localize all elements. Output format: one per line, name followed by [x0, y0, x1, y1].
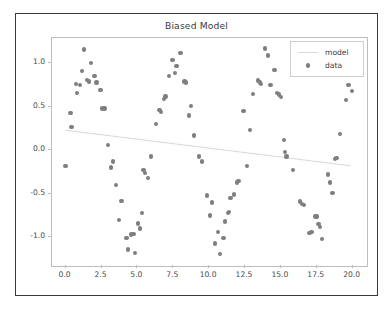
data-point: [334, 156, 338, 160]
data-point: [149, 154, 153, 158]
data-point: [318, 225, 322, 229]
data-point: [82, 47, 86, 51]
data-point: [210, 200, 214, 204]
data-point: [102, 106, 106, 110]
data-point: [184, 80, 188, 84]
data-point: [170, 58, 174, 62]
model-line: [66, 130, 351, 165]
x-tick-mark: [208, 265, 209, 268]
data-point: [163, 94, 167, 98]
data-point: [178, 51, 182, 55]
y-tick-label: 0.5: [13, 101, 45, 110]
data-point: [200, 159, 204, 163]
data-point: [119, 199, 123, 203]
x-tick-label: 15.0: [260, 270, 300, 279]
y-tick-label: -0.5: [13, 188, 45, 197]
data-point: [205, 193, 209, 197]
x-tick-label: 20.0: [332, 270, 372, 279]
x-tick-mark: [280, 265, 281, 268]
x-tick-label: 10.0: [188, 270, 228, 279]
figure-frame: Biased Model model data 1.00.50.0-0.5-1.…: [15, 13, 378, 296]
x-tick-mark: [136, 265, 137, 268]
data-point: [174, 64, 178, 68]
data-point: [221, 236, 225, 240]
x-tick-label: 17.5: [296, 270, 336, 279]
plot-axes: model data: [51, 37, 368, 267]
legend-label-model: model: [321, 48, 349, 57]
page-title: Biased Model: [16, 20, 377, 31]
legend-item-data: data: [295, 59, 358, 72]
y-tick-label: 0.0: [13, 144, 45, 153]
x-tick-mark: [101, 265, 102, 268]
data-point: [282, 138, 286, 142]
data-point: [218, 252, 222, 256]
legend-line-icon: [295, 52, 321, 53]
data-point: [192, 133, 196, 137]
data-point: [208, 213, 212, 217]
data-point: [213, 241, 217, 245]
data-point: [126, 247, 130, 251]
x-tick-label: 12.5: [224, 270, 264, 279]
x-tick-label: 5.0: [116, 270, 156, 279]
x-tick-mark: [244, 265, 245, 268]
data-point: [63, 164, 67, 168]
data-point: [346, 83, 350, 87]
legend-marker-icon: [295, 63, 321, 67]
data-point: [245, 164, 249, 168]
data-point: [315, 214, 319, 218]
data-point: [241, 109, 245, 113]
data-point: [338, 132, 342, 136]
x-tick-mark: [172, 265, 173, 268]
legend: model data: [290, 41, 364, 77]
data-point: [131, 232, 135, 236]
y-tick-mark: [48, 193, 51, 194]
data-point: [136, 221, 140, 225]
x-tick-label: 0.0: [45, 270, 85, 279]
data-point: [187, 113, 191, 117]
y-tick-mark: [48, 62, 51, 63]
data-point: [111, 159, 115, 163]
x-tick-label: 7.5: [152, 270, 192, 279]
data-point: [266, 53, 270, 57]
data-point: [236, 179, 240, 183]
data-point: [69, 125, 73, 129]
data-point: [309, 230, 313, 234]
data-point: [94, 80, 98, 84]
data-point: [272, 68, 276, 72]
y-tick-mark: [48, 149, 51, 150]
data-point: [268, 83, 272, 87]
data-point: [328, 180, 332, 184]
data-point: [87, 79, 91, 83]
data-point: [232, 192, 236, 196]
y-tick-label: -1.0: [13, 231, 45, 240]
data-point: [75, 91, 79, 95]
legend-item-model: model: [295, 46, 358, 59]
x-tick-mark: [352, 265, 353, 268]
y-tick-mark: [48, 236, 51, 237]
y-tick-label: 1.0: [13, 57, 45, 66]
data-point: [138, 226, 142, 230]
data-point: [197, 154, 201, 158]
x-tick-label: 2.5: [81, 270, 121, 279]
y-tick-mark: [48, 106, 51, 107]
legend-label-data: data: [321, 61, 342, 70]
data-point: [173, 71, 177, 75]
x-tick-mark: [316, 265, 317, 268]
data-point: [284, 154, 288, 158]
data-point: [98, 88, 102, 92]
data-point: [330, 191, 334, 195]
x-tick-mark: [65, 265, 66, 268]
data-point: [263, 46, 267, 50]
data-point: [68, 111, 72, 115]
data-point: [140, 211, 144, 215]
data-point: [251, 92, 255, 96]
